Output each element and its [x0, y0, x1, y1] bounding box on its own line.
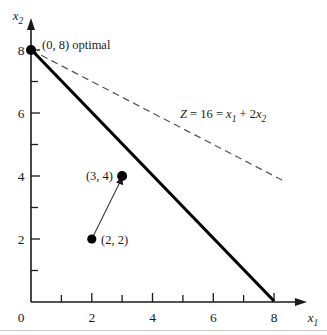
point-3-4-label: (3, 4): [86, 169, 113, 183]
data-points-group: [26, 45, 127, 244]
optimal-point-label: (0, 8) optimal: [42, 38, 111, 52]
constraint-boundary-line: [32, 50, 274, 301]
improvement-arrow: [92, 176, 123, 239]
point-3-4[interactable]: [117, 171, 127, 181]
eq-x2-subscript: 2: [262, 114, 267, 124]
point-optimal-0-8[interactable]: [26, 45, 36, 55]
x-axis-ticks: [61, 293, 274, 302]
y-tick-label-6: 6: [18, 106, 25, 121]
y-axis-ticks: [31, 50, 40, 271]
x-tick-labels: 0 2 4 6 8: [18, 310, 278, 325]
y-tick-label-2: 2: [18, 232, 25, 247]
objective-equation-label: Z = 16 = x1 + 2x2: [180, 107, 267, 124]
y-tick-label-8: 8: [18, 43, 25, 58]
x-axis-arrowhead: [295, 298, 307, 306]
point-2-2-label: (2, 2): [101, 233, 128, 247]
y-tick-label-4: 4: [18, 169, 25, 184]
eq-mid: = 16 =: [187, 107, 226, 121]
x-tick-label-4: 4: [149, 310, 156, 325]
x-axis-label-subscript: 1: [314, 318, 319, 328]
y-axis-label: x2: [12, 8, 24, 26]
x-tick-label-0: 0: [18, 310, 25, 325]
eq-plus: + 2: [236, 107, 256, 121]
figure-container: 0 2 4 6 8 2 4 6 8 x1 x2 (0, 8) optimal (…: [0, 0, 327, 335]
x-tick-label-6: 6: [210, 310, 217, 325]
improvement-arrow-shaft: [92, 182, 120, 239]
x-axis-label: x1: [307, 310, 319, 328]
linear-programming-graph: 0 2 4 6 8 2 4 6 8 x1 x2 (0, 8) optimal (…: [0, 0, 327, 335]
point-2-2[interactable]: [87, 234, 96, 243]
axes-group: [27, 18, 307, 306]
y-tick-labels: 2 4 6 8: [18, 43, 25, 247]
x-tick-label-2: 2: [88, 310, 95, 325]
x-tick-label-8: 8: [271, 310, 278, 325]
bottom-divider: [0, 330, 327, 331]
y-axis-arrowhead: [27, 18, 35, 30]
y-axis-label-subscript: 2: [19, 16, 24, 26]
